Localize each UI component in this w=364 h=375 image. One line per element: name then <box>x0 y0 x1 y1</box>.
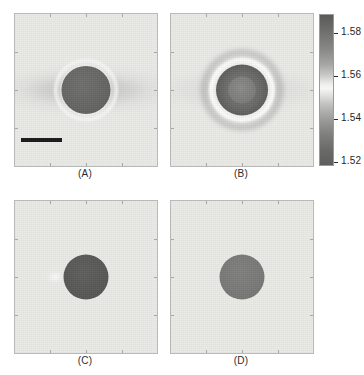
panel-b-droplet-core <box>228 77 256 104</box>
panel-c-image <box>14 200 158 354</box>
scale-bar <box>21 138 62 142</box>
panel-b-image <box>170 13 314 167</box>
panel-c-bright-sliver <box>46 269 64 284</box>
colorbar-tick-label-154: 1.54 <box>341 112 361 123</box>
colorbar-tick-label-152: 1.52 <box>341 155 361 166</box>
panel-a-droplet-core <box>62 66 111 114</box>
panel-c-label: (C) <box>14 355 156 366</box>
panel-b-label: (B) <box>170 168 312 179</box>
panel-d-label: (D) <box>170 355 312 366</box>
figure-container: (A) (B) (C) <box>0 0 364 375</box>
panel-a-image <box>14 13 158 167</box>
panel-d-image <box>170 200 314 354</box>
colorbar-tick-label-156: 1.56 <box>341 69 361 80</box>
panel-d-droplet-core <box>220 255 265 300</box>
colorbar <box>319 14 334 166</box>
panel-a-label: (A) <box>14 168 156 179</box>
panel-c-droplet-core <box>64 255 109 300</box>
colorbar-tick-label-158: 1.58 <box>341 26 361 37</box>
colorbar-gradient <box>319 14 334 166</box>
